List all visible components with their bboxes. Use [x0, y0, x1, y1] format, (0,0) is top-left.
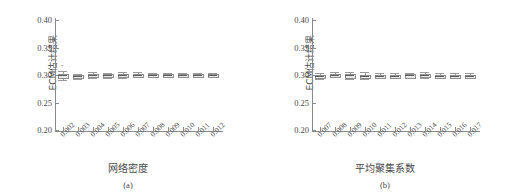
x-tick-label: 0.011 [376, 121, 393, 138]
x-tick-label: 0.010 [361, 121, 378, 138]
y-tick-label: 0.35 [0, 44, 52, 53]
cap-upper [360, 72, 369, 73]
panel-tag-b: (b) [257, 180, 513, 190]
median-line [330, 75, 339, 76]
median-line [345, 75, 354, 76]
cap-upper [345, 72, 354, 73]
x-tick-label: 0.007 [134, 121, 151, 138]
y-tick-mark [313, 20, 316, 21]
median-line [88, 75, 97, 76]
x-tick-label: 0.017 [466, 121, 483, 138]
x-tick-label: 0.002 [59, 121, 76, 138]
x-tick-label: 0.008 [149, 121, 166, 138]
y-axis-label-b: ECM估计结果 [306, 15, 315, 111]
y-tick-label: 0.25 [257, 99, 309, 108]
median-line [315, 76, 324, 77]
median-line [178, 75, 187, 76]
median-line [58, 75, 67, 76]
cap-lower [345, 79, 354, 80]
x-tick-label: 0.008 [331, 121, 348, 138]
median-line [450, 76, 459, 77]
median-line [360, 76, 369, 77]
x-tick-label: 0.012 [391, 121, 408, 138]
y-tick-mark [313, 48, 316, 49]
cap-upper [118, 72, 127, 73]
median-line [163, 75, 172, 76]
y-tick-label: 0.40 [257, 16, 309, 25]
median-line [420, 75, 429, 76]
panel-tag-a: (a) [0, 180, 256, 190]
x-tick-label: 0.015 [436, 121, 453, 138]
x-tick-label: 0.011 [194, 121, 211, 138]
y-tick-mark [56, 20, 59, 21]
median-line [208, 75, 217, 76]
median-line [405, 75, 414, 76]
median-line [465, 76, 474, 77]
y-tick-label: 0.30 [257, 71, 309, 80]
panel-b: ECM估计结果 0.200.250.300.350.40 0.0070.0080… [257, 0, 513, 196]
x-tick-label: 0.009 [346, 121, 363, 138]
median-line [148, 75, 157, 76]
x-tick-label: 0.012 [209, 121, 226, 138]
x-tick-label: 0.003 [74, 121, 91, 138]
panel-a: ECM估计结果 0.200.250.300.350.40 + 0.0020.00… [0, 0, 256, 196]
x-tick-label: 0.005 [104, 121, 121, 138]
x-tick-label: 0.009 [164, 121, 181, 138]
x-tick-label: 0.016 [451, 121, 468, 138]
x-tick-label: 0.007 [316, 121, 333, 138]
y-tick-mark [313, 103, 316, 104]
x-tick-label: 0.010 [179, 121, 196, 138]
y-tick-label: 0.35 [257, 44, 309, 53]
x-axis-title-b: 平均聚集系数 [257, 160, 513, 175]
x-tick-label: 0.004 [89, 121, 106, 138]
median-line [193, 75, 202, 76]
median-line [390, 76, 399, 77]
x-tick-label: 0.006 [119, 121, 136, 138]
y-tick-mark [56, 103, 59, 104]
outlier-marker: + [61, 64, 64, 69]
y-tick-label: 0.20 [0, 126, 52, 135]
cap-upper [450, 73, 459, 74]
y-tick-label: 0.40 [0, 16, 52, 25]
cap-upper [375, 73, 384, 74]
y-tick-mark [56, 48, 59, 49]
x-axis-title-a: 网络密度 [0, 160, 256, 175]
median-line [73, 76, 82, 77]
figure-boxplot-pair: ECM估计结果 0.200.250.300.350.40 + 0.0020.00… [0, 0, 513, 196]
cap-upper [88, 72, 97, 73]
x-tick-label: 0.013 [406, 121, 423, 138]
x-tick-label: 0.014 [421, 121, 438, 138]
cap-upper [405, 73, 414, 74]
median-line [375, 76, 384, 77]
cap-upper [465, 73, 474, 74]
cap-lower [315, 79, 324, 80]
cap-lower [118, 78, 127, 79]
median-line [435, 76, 444, 77]
cap-upper [420, 72, 429, 73]
median-line [133, 75, 142, 76]
y-tick-label: 0.20 [257, 126, 309, 135]
cap-upper [58, 71, 67, 72]
median-line [118, 75, 127, 76]
y-axis-label-a: ECM估计结果 [49, 15, 58, 111]
cap-lower [58, 80, 67, 81]
y-tick-label: 0.25 [0, 99, 52, 108]
median-line [103, 75, 112, 76]
y-tick-label: 0.30 [0, 71, 52, 80]
